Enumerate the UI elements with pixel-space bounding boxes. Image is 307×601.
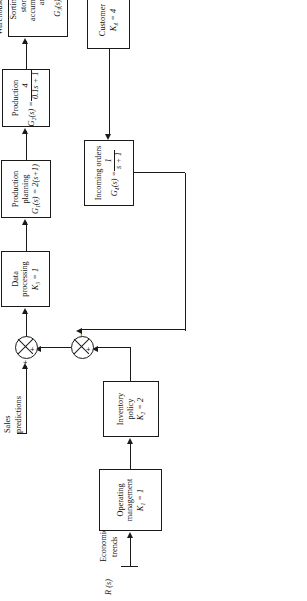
wire-data-processing-to-production-planning xyxy=(26,222,27,251)
input-symbol-label: R (s) xyxy=(104,579,113,595)
block-production-tf-numerator: 4 xyxy=(22,81,31,89)
block-inventory-policy[interactable]: Inventory policy K₂ = 2 xyxy=(103,381,159,437)
block-production-planning-line1: Production xyxy=(11,171,20,207)
block-operating-management[interactable]: Operating management K₁ = 1 xyxy=(99,469,162,531)
wire-incoming-orders-feedback-riser xyxy=(82,330,186,331)
block-inventory-policy-line1: Inventory xyxy=(116,393,125,425)
wire-sales-predictions-to-outer-junction xyxy=(26,366,27,434)
block-operating-management-line1: Operating xyxy=(116,483,125,516)
block-customer-line1: Customer xyxy=(98,4,107,36)
arrowhead-into-inventory-policy xyxy=(127,438,133,444)
block-warehouse-line2: storage, packing, xyxy=(19,0,28,12)
block-production-planning-transfer-function: G₁(s) = 2(s+1) xyxy=(31,164,40,214)
wire-incoming-orders-feedback-run xyxy=(185,173,186,331)
block-production-transfer-function: G₂(s) = 4 0.1s + 1 xyxy=(22,70,40,127)
wire-inventory-policy-riser xyxy=(98,348,131,349)
block-data-processing-gain: K₃ = 1 xyxy=(31,268,40,290)
wire-incoming-orders-drop xyxy=(134,173,185,174)
wire-production-to-warehouse xyxy=(26,41,27,69)
input-origin-tick xyxy=(121,566,138,567)
block-warehouse-line3: accumulation, loading xyxy=(28,0,37,21)
wire-inner-to-outer-junction xyxy=(40,348,71,349)
block-data-processing[interactable]: Data processing K₃ = 1 xyxy=(1,251,50,307)
block-operating-management-line2: management xyxy=(125,479,134,521)
sales-predictions-label-line2: predictions xyxy=(14,396,23,433)
block-incoming-orders-tf-denominator: s + 1 xyxy=(114,150,124,171)
wire-customer-to-incoming-orders xyxy=(109,49,110,135)
block-production-line1: Production xyxy=(11,80,20,116)
block-inventory-policy-gain: K₂ = 2 xyxy=(136,398,145,420)
arrowhead-into-data-processing xyxy=(22,308,28,314)
arrowhead-into-warehouse-functions xyxy=(22,38,28,44)
block-operating-management-gain: K₁ = 1 xyxy=(136,489,145,511)
warehouse-functions-group-label: Warehouse functions xyxy=(0,0,4,35)
block-incoming-orders-tf-fraction: 1 s + 1 xyxy=(105,150,123,171)
inner-junction-plus-sign: + xyxy=(85,347,93,352)
block-production-planning-line2: planning xyxy=(21,174,30,203)
input-description-line2: trends xyxy=(110,537,119,557)
sales-predictions-label-line1: Sales xyxy=(3,415,12,433)
block-warehouse-transfer-function: G₃(s) = 5 s(0.5s + 1) xyxy=(48,0,66,17)
wire-input-to-operating-management xyxy=(130,535,131,567)
arrowhead-into-production-planning xyxy=(22,219,28,225)
block-customer-gain: K₄ = 4 xyxy=(109,9,118,31)
arrowhead-into-operating-management xyxy=(127,532,133,538)
block-incoming-orders-tf-numerator: 1 xyxy=(105,156,114,164)
block-warehouse-line4: and shipping xyxy=(37,0,46,5)
sales-predictions-origin-tick xyxy=(17,433,26,434)
outer-junction-plus-sign-lower: + xyxy=(29,347,37,352)
block-data-processing-line1: Data xyxy=(11,271,20,287)
outer-junction-plus-sign-left: + xyxy=(22,360,30,365)
input-description-line1: Economic xyxy=(99,528,108,562)
wire-operating-management-to-inventory-policy xyxy=(130,441,131,469)
block-diagram-canvas: R (s) Economic trends Operating manageme… xyxy=(0,0,307,601)
block-production-tf-denominator: 0.1s + 1 xyxy=(31,70,41,102)
block-incoming-orders-line1: Incoming orders xyxy=(94,146,103,201)
arrowhead-into-production xyxy=(22,128,28,134)
block-inventory-policy-line2: policy xyxy=(126,399,135,420)
block-warehouse-line1: Sorting , dispatching, xyxy=(9,0,18,20)
wire-outer-junction-to-data-processing xyxy=(26,311,27,338)
block-production-tf-fraction: 4 0.1s + 1 xyxy=(22,70,40,102)
inner-junction-minus-sign: − xyxy=(78,332,86,337)
block-data-processing-line2: processing xyxy=(20,261,29,297)
block-incoming-orders-tf-lhs: G₄(s) = xyxy=(110,171,119,196)
block-warehouse-functions[interactable]: Sorting , dispatching, storage, packing,… xyxy=(8,0,68,37)
block-production[interactable]: Production G₂(s) = 4 0.1s + 1 xyxy=(2,69,50,127)
block-customer[interactable]: Customer K₄ = 4 xyxy=(87,0,130,49)
block-production-tf-lhs: G₂(s) = xyxy=(27,101,36,126)
block-warehouse-tf-lhs: G₃(s) = xyxy=(53,0,62,17)
block-incoming-orders-transfer-function: G₄(s) = 1 s + 1 xyxy=(105,150,123,196)
block-production-planning[interactable]: Production planning G₁(s) = 2(s+1) xyxy=(1,160,51,218)
block-incoming-orders[interactable]: Incoming orders G₄(s) = 1 s + 1 xyxy=(84,140,134,206)
wire-inventory-policy-out xyxy=(130,348,131,381)
wire-production-planning-to-production xyxy=(26,131,27,160)
